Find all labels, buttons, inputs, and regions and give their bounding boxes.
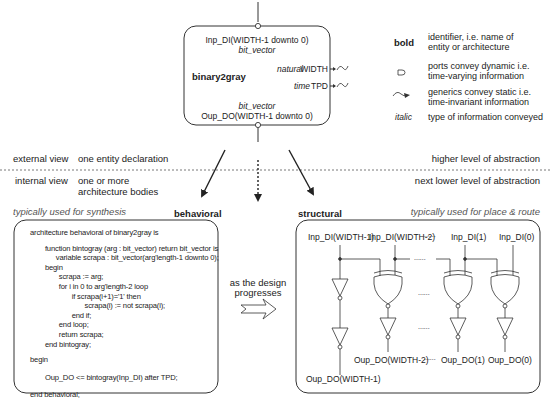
code-line: if scrapa(i+1)='1' then [30,292,219,302]
xnor-gate-3 [491,271,519,353]
generic-width-icon [330,66,348,71]
code-line: end loop; [30,320,219,330]
gate-ellipsis: ...... [418,288,430,298]
progress-arrow-icon [241,299,276,319]
entity-input-port: Inp_DI(WIDTH-1 downto 0) [184,35,330,45]
structural-title: structural [298,208,342,219]
code-line: end bintogray; [30,340,219,350]
code-line: variable scrapa : bit_vector(arg'length-… [30,253,219,263]
structural-input-0: Inp_DI(WIDTH-1) [308,232,374,242]
structural-input-3: Inp_DI(0) [499,232,534,242]
output-port-icon [255,122,260,127]
code-line: begin [30,355,219,365]
legend-bold-line2: entity or architecture [428,42,510,52]
generic-width-name: WIDTH [298,64,328,74]
xnor-gate-2 [444,271,472,353]
entity-input-type: bit_vector [184,45,330,55]
structural-output-2: Oup_DO(1) [441,355,485,365]
internal-view-desc-1: one or more [78,175,129,186]
legend-italic-line1: type of information conveyed [428,112,543,122]
code-line: scrapa := arg; [30,272,219,282]
internal-view-label: internal view [15,175,68,186]
xnor-gate-1 [374,271,402,353]
legend-port-icon [398,70,405,75]
code-line: for i in 0 to arg'length-2 loop [30,282,219,292]
external-level: higher level of abstraction [416,153,540,164]
inverter-ellipsis: ...... [418,322,430,332]
code-line: Oup_DO <= bintogray(Inp_DI) after TPD; [30,373,219,383]
progress-line-2: progresses [224,287,292,298]
structural-input-2: Inp_DI(1) [451,232,486,242]
legend-port-line2: time-varying information [428,71,524,81]
wire-ellipsis: ...... [414,253,426,263]
arrow-to-structural [289,150,313,194]
entity-output-port: Oup_DO(WIDTH-1 downto 0) [184,111,330,121]
output-ellipsis: ...... [424,353,436,363]
legend-bold-symbol: bold [394,37,414,48]
structural-output-3: Oup_DO(0) [488,355,532,365]
inverter-1 [332,279,348,375]
external-view-label: external view [13,153,68,164]
behavioral-code: architecture behavioral of binary2gray i… [30,228,219,400]
structural-output-1: Oup_DO(WIDTH-2) [354,355,429,365]
behavioral-usage: typically used for synthesis [13,206,126,217]
entity-name: binary2gray [192,71,246,82]
legend-port-line1: ports convey dynamic i.e. [428,61,530,71]
structural-usage: typically used for place & route [390,206,540,217]
code-line: function bintogray (arg : bit_vector) re… [30,244,219,254]
legend-generic-line2: time-invariant information [428,97,529,107]
legend-italic-symbol: italic [395,112,412,122]
code-line [30,382,219,390]
code-line: return scrapa; [30,330,219,340]
code-line [30,365,219,373]
generic-tpd-icon [330,83,348,88]
entity-output-type: bit_vector [184,101,330,111]
legend-generic-icon [393,92,410,98]
external-view-desc: one entity declaration [78,153,168,164]
behavioral-title: behavioral [174,208,222,219]
structural-input-ellipsis: ...... [424,230,436,240]
code-line: scrapa(i) := not scrapa(i); [30,301,219,311]
legend-bold-line1: identifier, i.e. name of [428,32,514,42]
code-line: begin [30,263,219,273]
internal-level: next lower level of abstraction [380,175,540,186]
code-line: architecture behavioral of binary2gray i… [30,228,219,238]
code-line: end if; [30,311,219,321]
structural-output-0: Oup_DO(WIDTH-1) [306,374,381,384]
internal-view-desc-2: architecture bodies [78,186,158,197]
legend-generic-line1: generics convey static i.e. [428,87,531,97]
input-port-icon [255,23,260,28]
code-line: end behavioral; [30,390,219,400]
generic-tpd-name: TPD [306,81,328,91]
arrow-to-behavioral [202,150,225,196]
